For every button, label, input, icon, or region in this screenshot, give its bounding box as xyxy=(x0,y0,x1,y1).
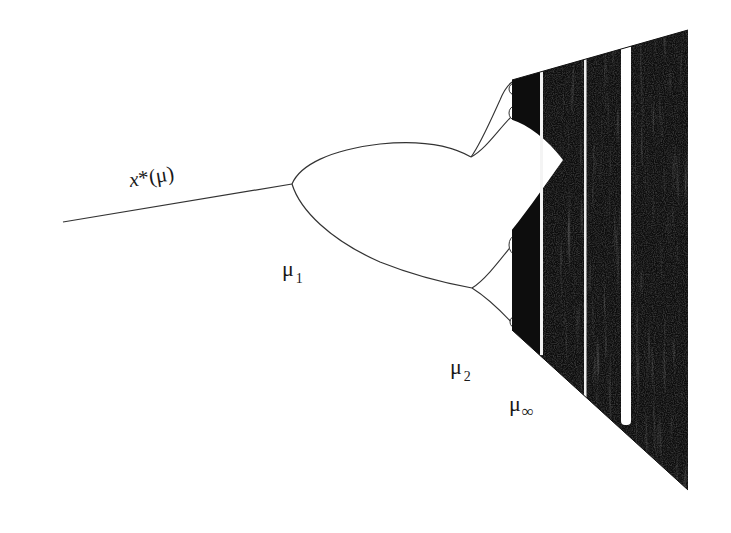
period2-upper-branch xyxy=(292,143,471,184)
period4-branch xyxy=(471,116,512,157)
period4-branch xyxy=(472,288,514,325)
mu2-subscript: 2 xyxy=(464,369,471,384)
fixed-point-branch xyxy=(63,184,292,222)
mu-infinity-label: μ∞ xyxy=(509,393,534,415)
mu2-symbol: μ xyxy=(450,354,462,379)
mu-infinity-symbol: μ xyxy=(509,391,521,416)
chaotic-region xyxy=(505,25,695,495)
mu1-symbol: μ xyxy=(282,256,294,281)
mu1-label: μ1 xyxy=(282,258,303,280)
period2-lower-branch xyxy=(292,184,472,288)
bifurcation-diagram xyxy=(0,0,731,533)
period4-branch xyxy=(472,245,512,288)
mu-infinity-subscript: ∞ xyxy=(522,402,534,421)
mu2-label: μ2 xyxy=(450,356,471,378)
periodic-window xyxy=(584,25,587,425)
period4-branch xyxy=(471,82,512,157)
mu1-subscript: 1 xyxy=(296,271,303,286)
periodic-window xyxy=(540,25,543,355)
